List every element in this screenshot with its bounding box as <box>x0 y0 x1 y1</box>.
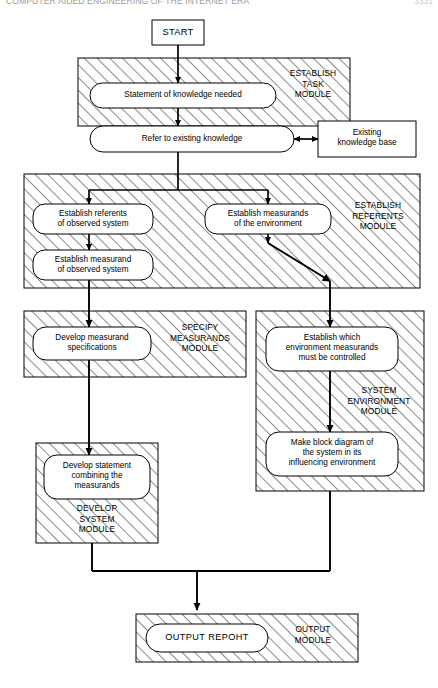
node-establish-environment-controlled-shape <box>266 327 398 371</box>
node-output-report-label: OUTPUT REPOHT <box>146 632 268 643</box>
node-establish-measurands-environment-shape <box>205 204 331 234</box>
node-existing-knowledge-base-shape <box>318 121 416 157</box>
module-label-specify-measurands: SPECIFY MEASURANDS MODULE <box>158 322 242 354</box>
node-develop-statement-combining-shape <box>44 455 150 499</box>
module-label-establish-referents: ESTABLISH REFERENTS MODULE <box>340 200 416 232</box>
node-establish-measurand-observed-shape <box>33 250 153 280</box>
node-refer-existing-knowledge-shape <box>90 126 294 152</box>
node-statement-knowledge-shape <box>90 83 276 108</box>
node-start-label: START <box>152 26 204 37</box>
module-label-establish-task: ESTABLISH TASK MODULE <box>278 68 348 100</box>
module-label-output: OUTPUT MODULE <box>278 624 348 645</box>
module-label-develop-system: DEVELOP SYSTEM MODULE <box>46 503 148 535</box>
node-establish-referents-observed-shape <box>33 204 153 234</box>
node-develop-measurand-specifications-shape <box>33 327 151 360</box>
node-make-block-diagram-shape <box>266 432 398 476</box>
module-label-system-environment: SYSTEM ENVIRONMENT MODULE <box>336 385 422 417</box>
